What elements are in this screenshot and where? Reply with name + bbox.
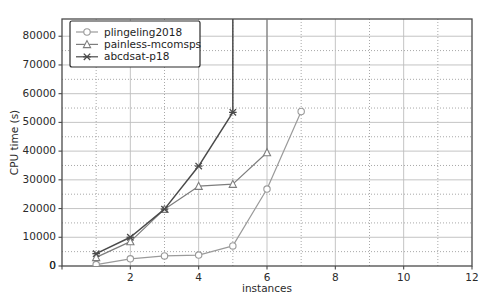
chart-canvas: 0100002000030000400005000060000700008000… [0,0,484,300]
x-tick-label: 8 [332,271,339,283]
legend-marker [84,29,90,35]
chart-figure: 0100002000030000400005000060000700008000… [0,0,484,300]
x-axis-title: instances [242,282,292,294]
legend-label: plingeling2018 [104,26,182,38]
data-point-marker [127,256,133,262]
data-point-marker [264,186,270,192]
data-point-marker [263,149,270,156]
y-tick-label: 70000 [23,58,56,70]
x-tick-label: 12 [465,271,478,283]
x-tick-label: 10 [397,271,410,283]
chart-legend[interactable]: plingeling2018painless-mcomspsabcdsat-p1… [70,21,201,67]
y-tick-label: 60000 [23,87,56,99]
y-tick-label: 20000 [23,202,56,214]
y-tick-label: 50000 [23,115,56,127]
y-axis-title: CPU time (s) [8,110,20,175]
y-tick-label: 30000 [23,173,56,185]
data-point-marker [161,253,167,259]
y-tick-label: 40000 [23,144,56,156]
x-tick-label: 2 [127,271,134,283]
data-point-marker [195,252,201,258]
data-point-marker [93,261,99,267]
data-point-marker [230,243,236,249]
x-tick-label: 4 [195,271,202,283]
data-point-marker [298,108,304,114]
legend-label: painless-mcomsps [104,38,201,50]
y-tick-label: 10000 [23,230,56,242]
origin-tick-label: 0 [49,259,56,271]
y-tick-label: 80000 [23,29,56,41]
legend-label: abcdsat-p18 [104,50,169,62]
